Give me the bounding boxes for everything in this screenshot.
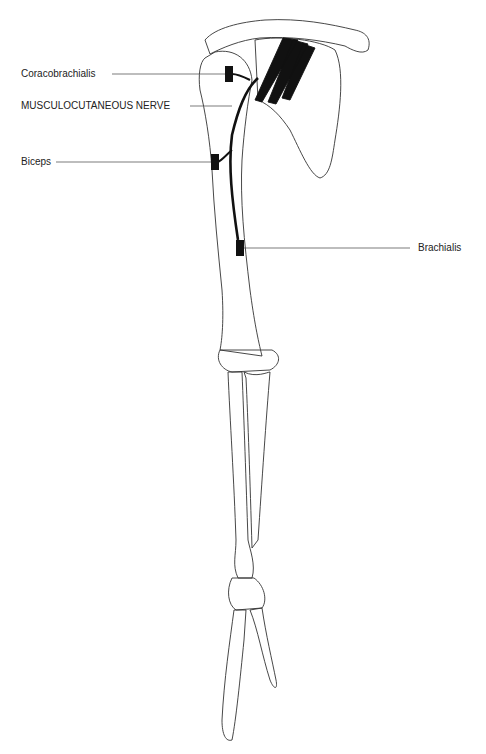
- arm-skeleton-diagram: [0, 0, 486, 754]
- marker-biceps: [211, 154, 219, 170]
- finger-long: [222, 610, 246, 740]
- elbow: [218, 350, 278, 372]
- label-biceps: Biceps: [21, 156, 51, 168]
- label-coracobrachialis: Coracobrachialis: [21, 68, 95, 80]
- brachial-plexus-cords: [255, 38, 315, 104]
- label-musculocutaneous-nerve: MUSCULOCUTANEOUS NERVE: [21, 100, 170, 112]
- nerve-branch-coracobrachialis: [232, 74, 250, 80]
- musculocutaneous-nerve: [230, 78, 258, 240]
- label-brachialis: Brachialis: [418, 242, 461, 254]
- ulna: [244, 372, 270, 548]
- thumb: [250, 608, 277, 688]
- carpals: [229, 578, 265, 610]
- marker-brachialis: [236, 240, 244, 256]
- humerus: [199, 51, 262, 356]
- marker-coracobrachialis: [225, 66, 233, 82]
